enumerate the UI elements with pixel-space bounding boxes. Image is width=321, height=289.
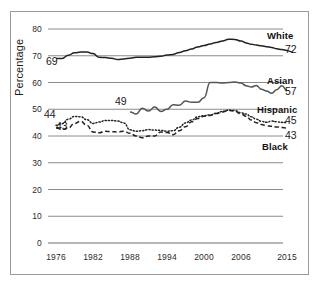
series-end-value-black: 43 [285,129,297,141]
chart-figure: Percentage 01020304050607080197619821988… [0,0,321,289]
y-tick-label-60: 60 [26,78,42,88]
series-label-black: Black [262,141,288,152]
x-tick-label-1982: 1982 [78,252,108,262]
x-tick-label-2006: 2006 [226,252,256,262]
x-tick-label-1976: 1976 [41,252,71,262]
series-line-black [56,110,287,138]
series-line-white [56,39,287,59]
series-start-value-black: 43 [56,120,68,132]
x-tick-label-1994: 1994 [152,252,182,262]
series-end-value-asian: 57 [285,85,297,97]
series-end-value-white: 72 [285,43,297,55]
series-line-hispanic [56,110,287,131]
series-start-value-asian: 49 [115,95,127,107]
y-tick-label-50: 50 [26,104,42,114]
y-tick-label-80: 80 [26,24,42,34]
y-tick-label-40: 40 [26,131,42,141]
x-tick-label-1988: 1988 [115,252,145,262]
x-tick-label-2015: 2015 [272,252,302,262]
y-tick-label-70: 70 [26,51,42,61]
y-tick-label-0: 0 [26,238,42,248]
series-start-value-white: 69 [46,55,58,67]
series-end-value-hispanic: 45 [285,114,297,126]
y-tick-label-20: 20 [26,185,42,195]
x-tick-label-2000: 2000 [189,252,219,262]
y-tick-label-30: 30 [26,158,42,168]
series-start-value-hispanic: 44 [44,108,56,120]
y-tick-label-10: 10 [26,211,42,221]
series-label-white: White [267,30,293,41]
